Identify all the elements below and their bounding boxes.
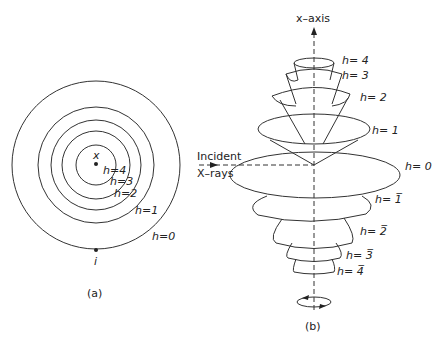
center-label: x xyxy=(92,149,100,162)
label-b-h3: h= 3 xyxy=(342,69,369,82)
label-b-h-2: h= 2̅ xyxy=(360,225,388,238)
diffraction-diagram: x i h=4 h=3 h=2 h=1 h=0 (a) x–axis xyxy=(0,0,440,340)
incident-label-1: Incident xyxy=(197,150,242,163)
caption-b: (b) xyxy=(305,320,321,333)
panel-b: x–axis Incident X–rays h= 4 h= 3 h= 2 h=… xyxy=(197,12,432,333)
label-b-h0: h= 0 xyxy=(405,160,432,173)
label-b-h4: h= 4 xyxy=(342,54,369,67)
label-b-h2: h= 2 xyxy=(360,91,387,104)
point-i-dot xyxy=(94,248,98,252)
label-h2: h=2 xyxy=(114,187,137,200)
caption-a: (a) xyxy=(87,287,102,300)
cone-h-2 xyxy=(273,218,353,249)
rotation-arrow-icon xyxy=(302,295,309,300)
cone-h-1 xyxy=(253,196,371,221)
rotation-arrow-icon-2 xyxy=(319,304,326,309)
axis-label: x–axis xyxy=(296,12,330,25)
point-label: i xyxy=(94,255,97,268)
incident-label-2: X–rays xyxy=(197,167,234,180)
label-b-h-4: h= 4̅ xyxy=(337,265,365,278)
cone-h0-ellipse xyxy=(230,152,400,198)
label-b-h-1: h= 1̅ xyxy=(375,193,403,206)
center-dot xyxy=(94,162,98,166)
label-h0: h=0 xyxy=(152,230,175,243)
axis-arrow-icon xyxy=(311,27,317,35)
panel-a: x i h=4 h=3 h=2 h=1 h=0 (a) xyxy=(12,81,180,300)
label-b-h1: h= 1 xyxy=(372,124,399,137)
label-h1: h=1 xyxy=(135,204,158,217)
cone-h2-rim xyxy=(272,87,350,106)
label-b-h-3: h= 3̅ xyxy=(346,249,374,262)
